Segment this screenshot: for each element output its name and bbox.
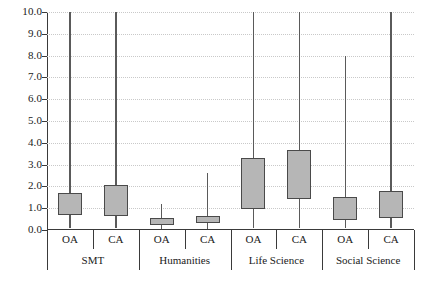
x-axis-sub-label-oa: OA <box>139 233 185 246</box>
x-axis-sub-label-oa: OA <box>47 233 93 246</box>
x-axis-group-label: Humanities <box>139 254 231 267</box>
x-axis-group-label: SMT <box>47 254 139 267</box>
box-rect[interactable] <box>104 185 128 216</box>
axis-separator-minor <box>276 230 277 249</box>
axis-separator-minor <box>185 230 186 249</box>
y-axis-tick-mark <box>42 77 47 78</box>
axis-separator-edge <box>414 230 415 270</box>
box-rect[interactable] <box>241 158 265 209</box>
axis-separator-minor <box>93 230 94 249</box>
y-axis-tick-label: 4.0 <box>0 137 42 148</box>
y-axis-tick-mark <box>42 186 47 187</box>
y-axis-tick-label: 9.0 <box>0 28 42 39</box>
y-axis-tick-label: 8.0 <box>0 50 42 61</box>
box-rect[interactable] <box>287 150 311 199</box>
box-plot-series[interactable] <box>322 12 368 230</box>
x-axis-group-label: Social Science <box>322 254 414 267</box>
x-axis-sub-label-oa: OA <box>322 233 368 246</box>
box-rect[interactable] <box>379 191 403 218</box>
box-plot-series[interactable] <box>368 12 414 230</box>
y-axis-tick-label: 6.0 <box>0 93 42 104</box>
y-axis-tick-label: 7.0 <box>0 71 42 82</box>
x-axis-sub-label-ca: CA <box>93 233 139 246</box>
y-axis-tick-mark <box>42 121 47 122</box>
box-plot-series[interactable] <box>139 12 185 230</box>
x-axis-group-label: Life Science <box>231 254 323 267</box>
y-axis-tick-label: 5.0 <box>0 115 42 126</box>
box-rect[interactable] <box>333 197 357 220</box>
axis-separator-edge <box>47 230 48 270</box>
y-axis-tick-mark <box>42 56 47 57</box>
y-axis-tick-label: 0.0 <box>0 224 42 235</box>
y-axis-tick-label: 3.0 <box>0 159 42 170</box>
axis-separator-minor <box>368 230 369 249</box>
box-plot-series[interactable] <box>276 12 322 230</box>
y-axis-tick-mark <box>42 99 47 100</box>
box-plot-series[interactable] <box>93 12 139 230</box>
y-axis-tick-mark <box>42 12 47 13</box>
x-axis: OACAOACAOACAOACASMTHumanitiesLife Scienc… <box>47 230 414 274</box>
y-axis-tick-mark <box>42 165 47 166</box>
box-rect[interactable] <box>196 216 220 224</box>
y-axis-tick-label: 2.0 <box>0 180 42 191</box>
y-axis-tick-mark <box>42 34 47 35</box>
y-axis-tick-label: 1.0 <box>0 202 42 213</box>
y-axis-tick-mark <box>42 208 47 209</box>
box-rect[interactable] <box>58 193 82 215</box>
box-plot-chart: 0.01.02.03.04.05.06.07.08.09.010.0 OACAO… <box>0 0 432 281</box>
x-axis-sub-label-ca: CA <box>368 233 414 246</box>
box-plot-series[interactable] <box>47 12 93 230</box>
y-axis-tick-label: 10.0 <box>0 6 42 17</box>
whisker-line <box>161 204 162 229</box>
box-plot-series[interactable] <box>185 12 231 230</box>
x-axis-sub-label-ca: CA <box>185 233 231 246</box>
x-axis-sub-label-ca: CA <box>276 233 322 246</box>
y-axis-tick-mark <box>42 143 47 144</box>
box-rect[interactable] <box>150 218 174 225</box>
plot-area <box>47 12 414 230</box>
x-axis-sub-label-oa: OA <box>231 233 277 246</box>
box-plot-series[interactable] <box>231 12 277 230</box>
